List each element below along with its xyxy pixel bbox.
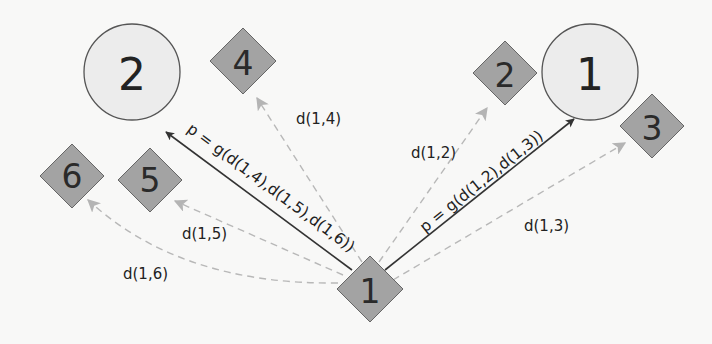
point-diamond-4: 4 [210,28,276,94]
point-diamond-1-label: 1 [360,272,381,311]
point-diamond-4-label: 4 [233,44,254,83]
cluster-circle-2-label: 2 [118,49,146,100]
label-d-1-4: d(1,4) [296,110,341,128]
clustering-diagram: 2 1 4 2 3 6 5 1 d(1,4) d(1,2) d(1,3) d(1… [0,0,712,344]
cluster-circle-2: 2 [84,24,180,120]
assignment-edges [166,119,574,270]
point-diamond-5-label: 5 [140,161,161,200]
point-diamond-3-label: 3 [642,109,663,148]
label-d-1-2: d(1,2) [411,144,456,162]
point-diamond-6-label: 6 [62,157,83,196]
edge-assign-circle-2 [166,132,352,270]
cluster-circle-1-label: 1 [576,49,604,100]
point-diamond-6: 6 [40,144,104,208]
label-d-1-6: d(1,6) [123,265,168,283]
point-diamond-2-label: 2 [495,56,516,95]
point-diamond-3: 3 [620,94,684,158]
label-d-1-5: d(1,5) [182,225,227,243]
point-diamond-5: 5 [118,148,182,212]
point-diamond-2: 2 [473,41,537,105]
cluster-circle-1: 1 [542,24,638,120]
label-d-1-3: d(1,3) [524,217,569,235]
